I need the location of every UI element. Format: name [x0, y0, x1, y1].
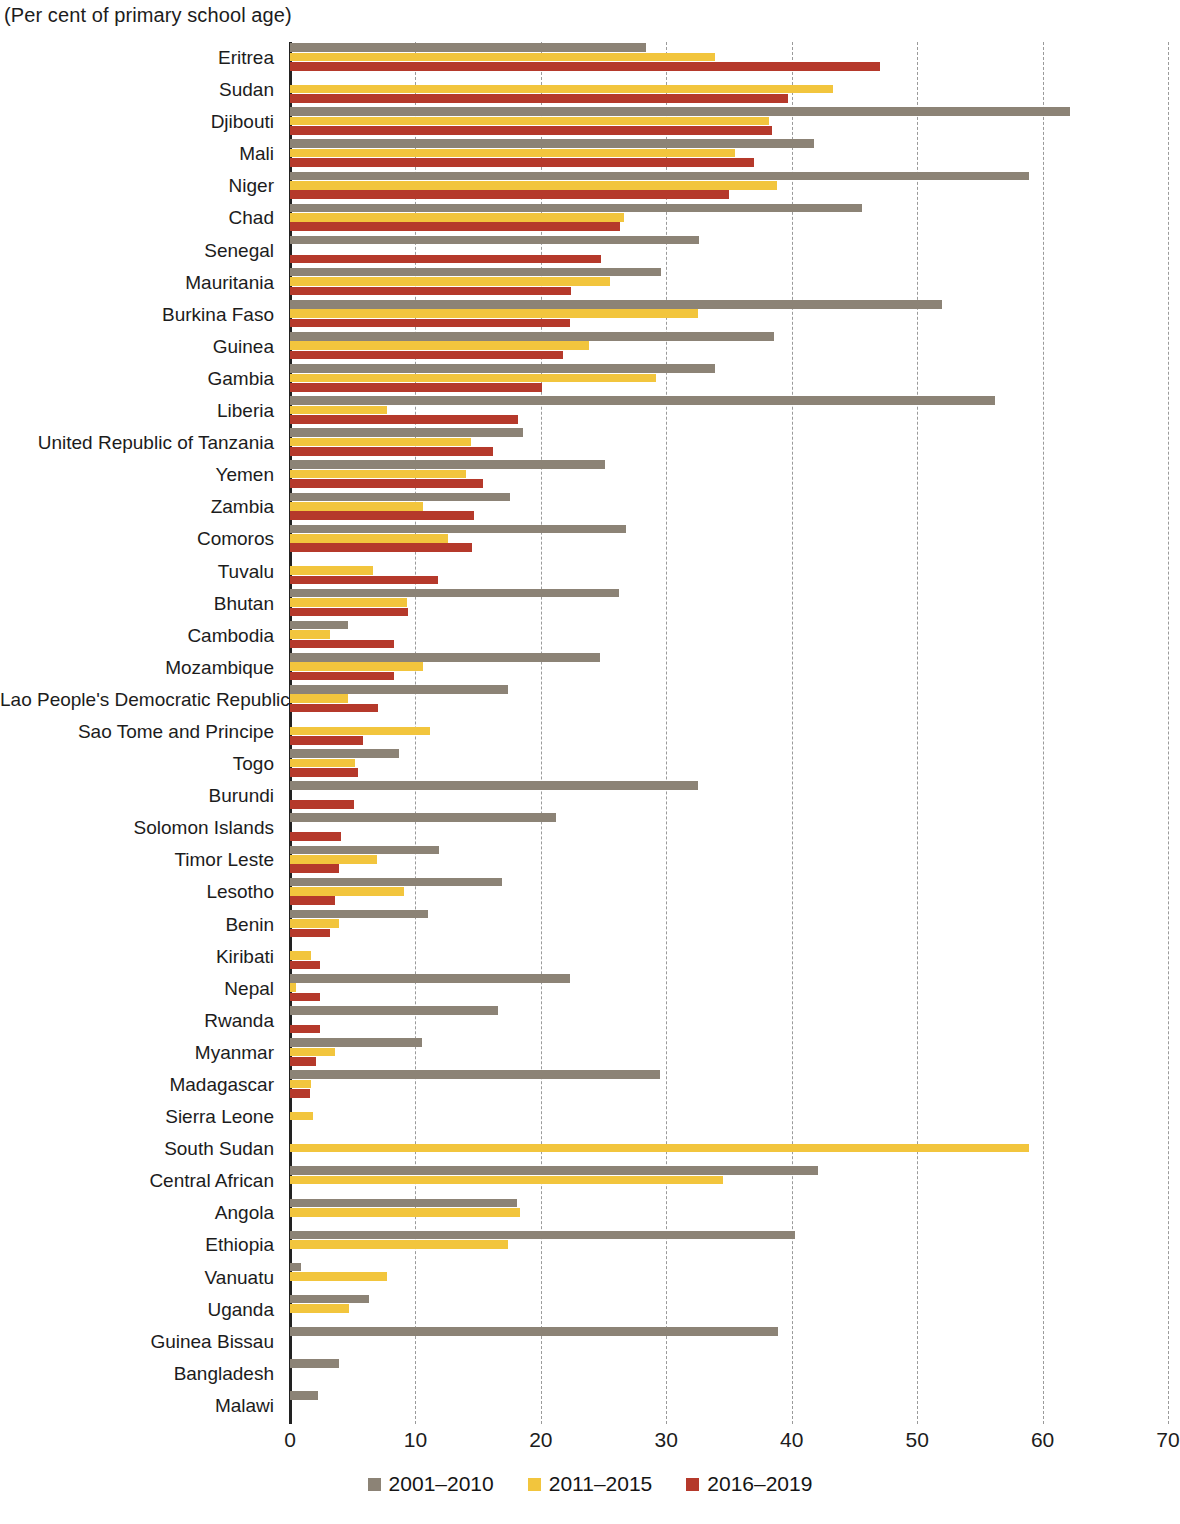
- bar: [290, 1070, 660, 1079]
- bar: [290, 1144, 1029, 1153]
- bar: [290, 332, 774, 341]
- bar: [290, 1391, 318, 1400]
- legend-item[interactable]: 2001–2010: [368, 1472, 494, 1496]
- axis-tick-label: 30: [655, 1428, 678, 1452]
- bar: [290, 951, 311, 960]
- category-label: Yemen: [0, 459, 282, 491]
- bar: [290, 589, 619, 598]
- bar-row: [290, 395, 1168, 427]
- category-label: Bhutan: [0, 588, 282, 620]
- bar: [290, 287, 571, 296]
- bar-row: [290, 1294, 1168, 1326]
- category-label: Burkina Faso: [0, 299, 282, 331]
- bar-row: [290, 876, 1168, 908]
- category-label: Mozambique: [0, 652, 282, 684]
- legend-item[interactable]: 2016–2019: [686, 1472, 812, 1496]
- category-label: Vanuatu: [0, 1262, 282, 1294]
- category-axis-labels: EritreaSudanDjiboutiMaliNigerChadSenegal…: [0, 42, 282, 1422]
- bar-row: [290, 170, 1168, 202]
- category-label: Sudan: [0, 74, 282, 106]
- category-label: Guinea: [0, 331, 282, 363]
- chart-subtitle: (Per cent of primary school age): [4, 4, 292, 27]
- bar: [290, 910, 428, 919]
- bar-row: [290, 74, 1168, 106]
- category-label: Liberia: [0, 395, 282, 427]
- legend-label: 2016–2019: [707, 1472, 812, 1496]
- bar: [290, 190, 729, 199]
- bar: [290, 1089, 310, 1098]
- bar: [290, 1166, 818, 1175]
- bar-row: [290, 1101, 1168, 1133]
- bar-row: [290, 1037, 1168, 1069]
- bar-row: [290, 620, 1168, 652]
- bar: [290, 846, 439, 855]
- bar-row: [290, 588, 1168, 620]
- bar: [290, 662, 423, 671]
- category-label: Chad: [0, 202, 282, 234]
- bar: [290, 1240, 508, 1249]
- bar: [290, 621, 348, 630]
- category-label: Kiribati: [0, 941, 282, 973]
- bar: [290, 139, 814, 148]
- bar-row: [290, 909, 1168, 941]
- bar-row: [290, 780, 1168, 812]
- legend-swatch-icon: [368, 1478, 381, 1491]
- bar: [290, 62, 880, 71]
- bar: [290, 800, 354, 809]
- bar: [290, 85, 833, 94]
- bar: [290, 213, 624, 222]
- bar: [290, 415, 518, 424]
- category-label: Sao Tome and Principe: [0, 716, 282, 748]
- bar: [290, 566, 373, 575]
- category-label: Ethiopia: [0, 1229, 282, 1261]
- bar: [290, 576, 438, 585]
- bar-row: [290, 748, 1168, 780]
- bar: [290, 832, 341, 841]
- legend-swatch-icon: [528, 1478, 541, 1491]
- bar: [290, 993, 320, 1002]
- bar: [290, 300, 942, 309]
- bar-row: [290, 523, 1168, 555]
- bar: [290, 383, 542, 392]
- chart-legend: 2001–20102011–20152016–2019: [0, 1472, 1180, 1496]
- category-label: South Sudan: [0, 1133, 282, 1165]
- bar: [290, 1272, 387, 1281]
- bar: [290, 929, 330, 938]
- bar: [290, 149, 735, 158]
- bar: [290, 653, 600, 662]
- bar: [290, 864, 339, 873]
- bar: [290, 94, 788, 103]
- bar: [290, 1327, 778, 1336]
- axis-tick-label: 40: [780, 1428, 803, 1452]
- bar: [290, 1080, 311, 1089]
- category-label: Rwanda: [0, 1005, 282, 1037]
- bar: [290, 781, 698, 790]
- bar-row: [290, 973, 1168, 1005]
- legend-item[interactable]: 2011–2015: [528, 1472, 653, 1496]
- bar: [290, 1295, 369, 1304]
- bar-row: [290, 267, 1168, 299]
- axis-tick-label: 0: [284, 1428, 296, 1452]
- category-label: Nepal: [0, 973, 282, 1005]
- bar-row: [290, 716, 1168, 748]
- bar: [290, 598, 407, 607]
- bar: [290, 396, 995, 405]
- bar: [290, 813, 556, 822]
- bar: [290, 1057, 316, 1066]
- category-label: Lao People's Democratic Republic: [0, 684, 282, 716]
- category-label: Benin: [0, 909, 282, 941]
- bar: [290, 1112, 313, 1121]
- bar: [290, 181, 777, 190]
- bar: [290, 1231, 795, 1240]
- bar: [290, 525, 626, 534]
- category-label: Sierra Leone: [0, 1101, 282, 1133]
- bar: [290, 1304, 349, 1313]
- bar: [290, 341, 589, 350]
- bar: [290, 428, 523, 437]
- axis-tick-label: 20: [529, 1428, 552, 1452]
- category-label: Togo: [0, 748, 282, 780]
- bar-row: [290, 427, 1168, 459]
- legend-label: 2001–2010: [389, 1472, 494, 1496]
- category-label: Gambia: [0, 363, 282, 395]
- bar: [290, 1006, 498, 1015]
